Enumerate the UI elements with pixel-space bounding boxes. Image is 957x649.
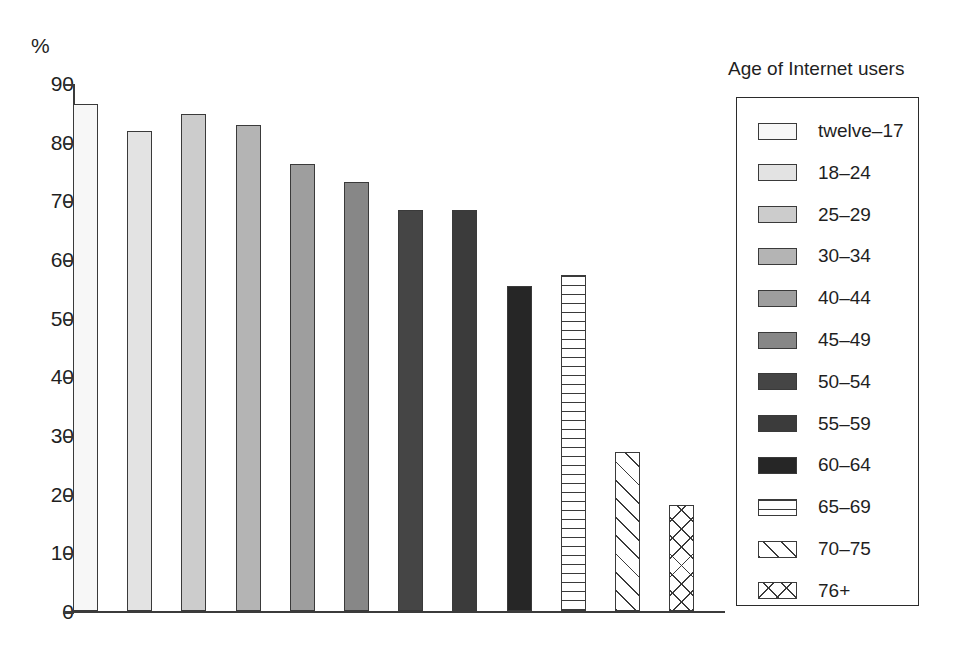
legend-item[interactable]: 55–59 — [737, 409, 920, 439]
legend-swatch-icon — [758, 206, 797, 223]
legend-item[interactable]: 70–75 — [737, 534, 920, 564]
legend-item-label: 60–64 — [818, 454, 871, 476]
legend-swatch-icon — [758, 415, 797, 432]
legend-item-label: 40–44 — [818, 287, 871, 309]
legend-swatch-icon — [758, 499, 797, 516]
bar — [507, 286, 532, 611]
bar — [290, 164, 315, 611]
legend-item[interactable]: 45–49 — [737, 325, 920, 355]
legend-item[interactable]: 60–64 — [737, 450, 920, 480]
bar — [452, 210, 477, 611]
legend-item[interactable]: 40–44 — [737, 283, 920, 313]
legend-item-label: 45–49 — [818, 329, 871, 351]
legend-item-label: 65–69 — [818, 496, 871, 518]
legend-item-label: twelve–17 — [818, 120, 904, 142]
legend-swatch-icon — [758, 248, 797, 265]
bar — [236, 125, 261, 611]
legend-swatch-icon — [758, 123, 797, 140]
legend-item[interactable]: 65–69 — [737, 492, 920, 522]
bar — [615, 452, 640, 611]
bar-chart: % 9080706050403020100 Age of Internet us… — [0, 0, 957, 649]
bar — [561, 275, 586, 611]
legend-swatch-icon — [758, 582, 797, 599]
legend-item-label: 70–75 — [818, 538, 871, 560]
legend-title: Age of Internet users — [728, 58, 904, 80]
legend-item[interactable]: 18–24 — [737, 158, 920, 188]
bar — [398, 210, 423, 611]
legend-swatch-icon — [758, 373, 797, 390]
bar — [73, 104, 98, 611]
legend-swatch-icon — [758, 457, 797, 474]
legend-swatch-icon — [758, 164, 797, 181]
legend-item-label: 55–59 — [818, 413, 871, 435]
bar — [669, 505, 694, 611]
legend-item[interactable]: 25–29 — [737, 200, 920, 230]
legend-swatch-icon — [758, 541, 797, 558]
legend-item[interactable]: 50–54 — [737, 367, 920, 397]
legend-item-label: 50–54 — [818, 371, 871, 393]
legend-swatch-icon — [758, 290, 797, 307]
legend-item[interactable]: twelve–17 — [737, 116, 920, 146]
bar — [127, 131, 152, 611]
legend-item-label: 76+ — [818, 580, 850, 602]
legend-item[interactable]: 76+ — [737, 576, 920, 606]
bar — [344, 182, 369, 611]
legend-box: twelve–1718–2425–2930–3440–4445–4950–545… — [736, 97, 919, 606]
legend-item-label: 18–24 — [818, 162, 871, 184]
legend-swatch-icon — [758, 332, 797, 349]
legend-item[interactable]: 30–34 — [737, 241, 920, 271]
legend-item-label: 30–34 — [818, 245, 871, 267]
legend-item-label: 25–29 — [818, 204, 871, 226]
bar — [181, 114, 206, 611]
